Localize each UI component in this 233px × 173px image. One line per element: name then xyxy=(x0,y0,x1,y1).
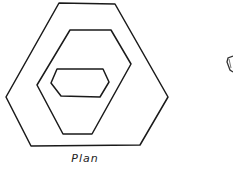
outer-hexagon xyxy=(6,3,168,146)
plan-diagram xyxy=(0,0,233,173)
inner-hexagon xyxy=(51,69,109,97)
plan-caption: Plan xyxy=(65,152,105,165)
